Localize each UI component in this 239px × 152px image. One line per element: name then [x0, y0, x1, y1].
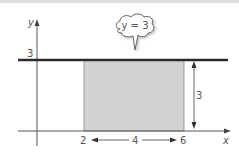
x-tick-2-label: 2 [80, 135, 86, 146]
callout-equation-label: y = 3 [121, 20, 148, 31]
x-axis-label: x [222, 135, 229, 146]
height-value-label: 3 [196, 90, 202, 101]
x-tick-6-label: 6 [180, 135, 186, 146]
y-axis-label: y [27, 17, 35, 28]
y-axis [35, 19, 40, 146]
y-tick-3-label: 3 [27, 48, 33, 59]
graph-canvas: y = 3 y 3 2 4 6 x 3 [0, 0, 239, 152]
width-value-label: 4 [132, 135, 138, 146]
shaded-region [84, 60, 184, 131]
